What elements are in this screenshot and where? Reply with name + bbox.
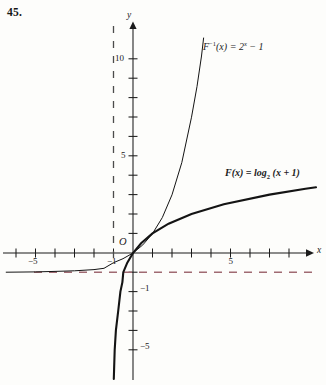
- x-axis: [3, 249, 314, 256]
- y-tick-label-minus5: −5: [140, 341, 150, 351]
- y-tick-label-5: 5: [121, 150, 126, 160]
- inverse-fn-superscript: −1: [209, 40, 216, 47]
- y-tick-label-10: 10: [115, 53, 124, 63]
- y-tick-label-minus1: −1: [140, 283, 150, 293]
- curve-inverse-exponential: [6, 38, 203, 272]
- inverse-fn-arg: (x): [216, 41, 227, 52]
- origin-label: O: [119, 236, 127, 247]
- fn-equals: =: [246, 167, 252, 178]
- function-label: F(x) = log2 (x + 1): [225, 167, 300, 180]
- inverse-fn-rest: − 1: [249, 41, 263, 52]
- y-axis-name: y: [127, 10, 131, 20]
- x-tick-label-minus5: −5: [28, 256, 38, 266]
- inverse-function-label: F−1(x) = 2x − 1: [203, 40, 264, 52]
- y-axis: [129, 22, 136, 381]
- x-axis-name: x: [317, 245, 321, 255]
- fn-name: F: [225, 167, 232, 178]
- x-tick-label-minus1: −1: [107, 256, 117, 266]
- fn-log-base: 2: [267, 173, 270, 180]
- graph-figure: [0, 0, 326, 385]
- x-tick-label-5: 5: [229, 256, 234, 266]
- inverse-fn-exponent: x: [244, 40, 247, 47]
- fn-log: log: [254, 167, 267, 178]
- inverse-fn-equals: =: [230, 41, 237, 52]
- fn-arg: (x): [232, 167, 244, 178]
- fn-rest: (x + 1): [273, 167, 300, 178]
